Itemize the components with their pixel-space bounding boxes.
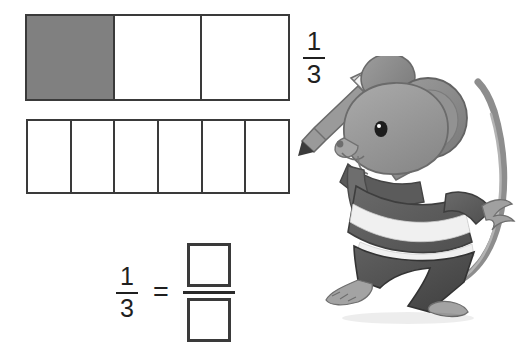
mouse-with-pencil-icon [296,56,517,325]
answer-fraction-rule [183,291,235,294]
thirds-bar-model [25,14,290,101]
fraction-numerator: 1 [304,28,324,54]
thirds-cell-1[interactable] [25,14,115,101]
sixths-cell-6[interactable] [244,119,290,194]
sixths-cell-2[interactable] [70,119,116,194]
sixths-cell-3[interactable] [113,119,159,194]
thirds-cell-2[interactable] [113,14,203,101]
mouse-head-icon [344,83,448,174]
equals-sign: = [153,279,169,306]
equation-answer-fraction [183,243,235,342]
mouse-foot-left-icon [326,280,372,305]
mouse-nose-icon [337,141,344,148]
equation-left-denominator: 3 [117,296,137,321]
mouse-eye-icon [375,121,388,137]
thirds-cell-3[interactable] [200,14,290,101]
sixths-bar-model [26,119,290,194]
sixths-cell-4[interactable] [157,119,203,194]
equation-left-numerator: 1 [117,264,137,289]
equivalence-equation: 1 3 = [116,243,235,342]
sixths-cell-5[interactable] [201,119,247,194]
answer-denominator-box[interactable] [187,298,231,342]
answer-numerator-box[interactable] [187,243,231,287]
equation-left-fraction: 1 3 [116,264,138,321]
sixths-cell-1[interactable] [26,119,72,194]
